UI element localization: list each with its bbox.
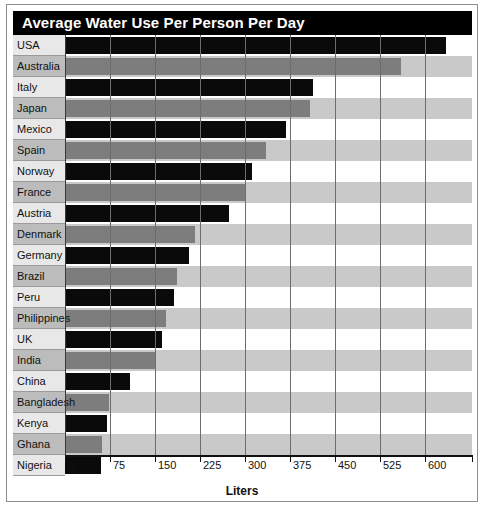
bar xyxy=(65,184,246,201)
axis-tick xyxy=(200,455,201,462)
table-row: USA xyxy=(13,35,472,56)
category-label-cell: India xyxy=(13,350,65,371)
category-label: UK xyxy=(13,333,32,345)
category-label: Denmark xyxy=(13,228,62,240)
bar xyxy=(65,331,162,348)
x-axis-line xyxy=(65,455,472,457)
category-label: France xyxy=(13,186,51,198)
bar xyxy=(65,268,177,285)
category-label-cell: Japan xyxy=(13,98,65,119)
bar-cell xyxy=(65,56,472,77)
category-label: Spain xyxy=(13,144,45,156)
chart-title-bar: Average Water Use Per Person Per Day xyxy=(13,11,472,35)
category-label-cell: USA xyxy=(13,35,65,56)
category-label: Brazil xyxy=(13,270,45,282)
table-row: Spain xyxy=(13,140,472,161)
bar xyxy=(65,310,166,327)
chart-title: Average Water Use Per Person Per Day xyxy=(22,14,305,31)
category-label-cell: Kenya xyxy=(13,413,65,434)
category-label: Kenya xyxy=(13,417,48,429)
table-row: Italy xyxy=(13,77,472,98)
axis-tick xyxy=(425,455,426,462)
axis-tick xyxy=(380,455,381,462)
category-label-cell: China xyxy=(13,371,65,392)
bar-cell xyxy=(65,266,472,287)
category-label: USA xyxy=(13,39,40,51)
bar-cell xyxy=(65,308,472,329)
axis-tick xyxy=(110,455,111,462)
table-row: Germany xyxy=(13,245,472,266)
axis-tick-label: 150 xyxy=(158,459,176,471)
axis-tick xyxy=(335,455,336,462)
axis-tick-label: 375 xyxy=(293,459,311,471)
bar xyxy=(65,79,313,96)
category-label-cell: Peru xyxy=(13,287,65,308)
bar-cell xyxy=(65,77,472,98)
bar xyxy=(65,373,130,390)
category-label-cell: Ghana xyxy=(13,434,65,455)
axis-tick xyxy=(65,455,66,462)
category-label: Philippines xyxy=(13,312,70,324)
table-row: Peru xyxy=(13,287,472,308)
axis-tick-label: 300 xyxy=(248,459,266,471)
bar-cell xyxy=(65,182,472,203)
bar xyxy=(65,121,286,138)
category-label-cell: Austria xyxy=(13,203,65,224)
plot-left-border xyxy=(65,35,66,455)
axis-end-tick xyxy=(472,455,473,462)
bar-cell xyxy=(65,350,472,371)
category-label: Ghana xyxy=(13,438,50,450)
bar-cell xyxy=(65,371,472,392)
chart-plot-area: USAAustraliaItalyJapanMexicoSpainNorwayF… xyxy=(13,35,472,455)
category-label-cell: Spain xyxy=(13,140,65,161)
category-label: Japan xyxy=(13,102,47,114)
bar-rows: USAAustraliaItalyJapanMexicoSpainNorwayF… xyxy=(13,35,472,455)
bar xyxy=(65,352,156,369)
table-row: Austria xyxy=(13,203,472,224)
category-label-cell: Germany xyxy=(13,245,65,266)
bar xyxy=(65,247,189,264)
table-row: Denmark xyxy=(13,224,472,245)
bar xyxy=(65,163,252,180)
category-label: Italy xyxy=(13,81,37,93)
table-row: India xyxy=(13,350,472,371)
bar-cell xyxy=(65,98,472,119)
bar xyxy=(65,205,229,222)
category-label: China xyxy=(13,375,46,387)
table-row: UK xyxy=(13,329,472,350)
bar xyxy=(65,415,107,432)
table-row: Australia xyxy=(13,56,472,77)
category-label-cell: Philippines xyxy=(13,308,65,329)
table-row: Kenya xyxy=(13,413,472,434)
axis-tick-label: 0 xyxy=(68,459,74,471)
category-label: Peru xyxy=(13,291,40,303)
bar xyxy=(65,226,195,243)
table-row: China xyxy=(13,371,472,392)
bar xyxy=(65,58,401,75)
category-label-cell: Denmark xyxy=(13,224,65,245)
category-label: Austria xyxy=(13,207,51,219)
axis-tick-label: 225 xyxy=(203,459,221,471)
bar xyxy=(65,142,266,159)
table-row: Brazil xyxy=(13,266,472,287)
bar-cell xyxy=(65,392,472,413)
bar xyxy=(65,100,310,117)
bar-cell xyxy=(65,434,472,455)
table-row: Bangladesh xyxy=(13,392,472,413)
x-axis-title: Liters xyxy=(0,484,484,498)
bar-cell xyxy=(65,224,472,245)
bar xyxy=(65,436,102,453)
category-label: Germany xyxy=(13,249,62,261)
category-label-cell: Mexico xyxy=(13,119,65,140)
axis-tick-label: 600 xyxy=(428,459,446,471)
bar-cell xyxy=(65,119,472,140)
category-label-cell: UK xyxy=(13,329,65,350)
axis-tick-label: 450 xyxy=(338,459,356,471)
bar-cell xyxy=(65,161,472,182)
bar xyxy=(65,37,446,54)
bar-cell xyxy=(65,329,472,350)
chart-page: Average Water Use Per Person Per Day USA… xyxy=(0,0,484,506)
axis-tick xyxy=(290,455,291,462)
category-label: India xyxy=(13,354,41,366)
bar-cell xyxy=(65,35,472,56)
